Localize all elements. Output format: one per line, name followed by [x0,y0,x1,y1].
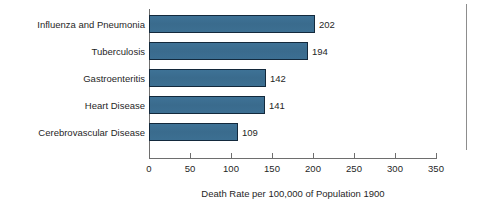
x-tick-mark-50 [190,153,191,158]
bar-tuberculosis[interactable] [149,42,308,60]
x-tick-mark-100 [231,153,232,158]
x-tick-label-150: 150 [264,163,280,174]
x-tick-mark-300 [395,153,396,158]
page-edge-rule [466,4,467,150]
x-tick-label-350: 350 [428,163,444,174]
x-axis-title: Death Rate per 100,000 of Population 190… [149,188,437,199]
x-tick-label-100: 100 [223,163,239,174]
bar-cerebrovascular-disease[interactable] [149,123,238,141]
x-tick-label-50: 50 [185,163,196,174]
plot-area: Influenza and Pneumonia Tuberculosis Gas… [0,0,483,211]
x-axis-line [149,158,437,159]
data-label-gastroenteritis: 142 [270,73,286,84]
bar-chart-figure: Influenza and Pneumonia Tuberculosis Gas… [0,0,483,211]
x-tick-mark-0 [149,153,150,158]
category-label-heart-disease: Heart Disease [0,100,145,111]
x-tick-label-250: 250 [346,163,362,174]
data-label-tuberculosis: 194 [312,46,328,57]
bar-heart-disease[interactable] [149,96,265,114]
category-label-influenza-and-pneumonia: Influenza and Pneumonia [0,19,145,30]
category-label-tuberculosis: Tuberculosis [0,46,145,57]
x-tick-mark-200 [313,153,314,158]
bar-influenza-and-pneumonia[interactable] [149,15,315,33]
data-label-heart-disease: 141 [269,100,285,111]
category-label-cerebrovascular-disease: Cerebrovascular Disease [0,127,145,138]
data-label-influenza-and-pneumonia: 202 [319,19,335,30]
category-label-gastroenteritis: Gastroenteritis [0,73,145,84]
x-tick-label-0: 0 [146,163,151,174]
x-tick-mark-150 [272,153,273,158]
x-tick-mark-250 [354,153,355,158]
x-tick-label-300: 300 [387,163,403,174]
data-label-cerebrovascular-disease: 109 [242,127,258,138]
x-tick-mark-350 [436,153,437,158]
x-tick-label-200: 200 [305,163,321,174]
bar-gastroenteritis[interactable] [149,69,266,87]
